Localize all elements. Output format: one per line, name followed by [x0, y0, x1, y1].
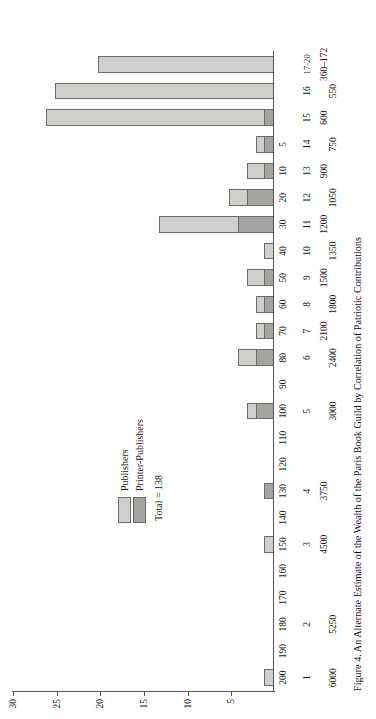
bar-group [55, 83, 273, 100]
livres-tick-label: 190 [278, 644, 288, 658]
capitation-class-label: 6 [302, 355, 312, 360]
bar-segment-printer-publishers [256, 349, 273, 366]
patriotic-contribution-label: 4500 [319, 535, 329, 554]
bar-group [264, 483, 273, 500]
figure-stage: 51015202530 Number of Publishers and Pri… [0, 0, 376, 719]
capitation-class-label: 5 [302, 409, 312, 414]
livres-tick-label: 120 [278, 457, 288, 471]
bar-segment-publishers [247, 163, 264, 180]
bar-segment-publishers [46, 109, 264, 126]
bar-group [256, 323, 273, 340]
bar-segment-publishers [264, 669, 273, 686]
livres-tick-label: 90 [278, 380, 288, 390]
livres-tick-label: 100 [278, 404, 288, 418]
livres-tick-label: 40 [278, 246, 288, 256]
patriotic-contribution-label: 5250 [328, 615, 338, 634]
patriotic-contribution-label: 1050 [328, 188, 338, 207]
bar-segment-publishers [98, 56, 273, 73]
bar-group [264, 243, 273, 260]
bar-segment-publishers [256, 296, 265, 313]
patriotic-contribution-label: 3000 [328, 402, 338, 421]
livres-tick-label: 200 [278, 671, 288, 685]
livres-tick-label: 80 [278, 353, 288, 363]
patriotic-contribution-label: 3750 [319, 482, 329, 501]
capitation-class-label: 17-20 [302, 54, 312, 74]
value-axis-tick [100, 691, 101, 696]
bar-segment-printer-publishers [264, 323, 273, 340]
livres-tick-label: 5 [278, 142, 288, 147]
capitation-class-label: 2 [302, 622, 312, 627]
capitation-class-label: 7 [302, 329, 312, 334]
row-livres: 2001901801701601501401301201101009080706… [278, 51, 298, 691]
livres-tick-label: 180 [278, 617, 288, 631]
patriotic-contribution-label: 1200 [319, 215, 329, 234]
value-axis-tick-label: 5 [226, 699, 236, 704]
value-axis-tick-label: 10 [183, 699, 193, 709]
bar-group [256, 136, 273, 153]
patriotic-contribution-label: 900 [319, 164, 329, 178]
bar-segment-publishers [247, 269, 264, 286]
value-axis: 51015202530 [12, 691, 275, 719]
bar-segment-publishers [256, 136, 265, 153]
livres-tick-label: 20 [278, 193, 288, 203]
bar-group [256, 296, 273, 313]
category-axis-baseline [273, 51, 274, 691]
patriotic-contribution-label: 6000 [328, 668, 338, 687]
chart-legend: Publishers Printer-Publishers Total = 13… [118, 419, 164, 523]
value-axis-tick-label: 20 [95, 699, 105, 709]
livres-tick-label: 130 [278, 484, 288, 498]
bar-segment-printer-publishers [264, 483, 273, 500]
patriotic-contribution-label: 360–172 [319, 48, 329, 81]
patriotic-contribution-label: 1800 [328, 295, 338, 314]
legend-label-printer-publishers: Printer-Publishers [134, 419, 145, 491]
patriotic-contribution-label: 2100 [319, 322, 329, 341]
bar-segment-publishers [238, 349, 255, 366]
livres-tick-label: 170 [278, 591, 288, 605]
bar-segment-publishers [256, 323, 265, 340]
value-axis-tick-label: 25 [52, 699, 62, 709]
bar-segment-printer-publishers [264, 163, 273, 180]
legend-label-publishers: Publishers [119, 449, 130, 491]
legend-total: Total = 138 [153, 419, 164, 521]
bar-segment-printer-publishers [247, 189, 273, 206]
bar-segment-printer-publishers [238, 216, 273, 233]
patriotic-contribution-label: 2400 [328, 348, 338, 367]
livres-tick-label: 30 [278, 220, 288, 230]
bar-group [46, 109, 273, 126]
legend-entry-publishers: Publishers [118, 419, 131, 523]
legend-entry-printer-publishers: Printer-Publishers [133, 419, 146, 523]
bar-group [247, 403, 273, 420]
bar-segment-publishers [229, 189, 246, 206]
patriotic-contribution-label: 1500 [319, 268, 329, 287]
value-axis-tick [231, 691, 232, 696]
capitation-class-label: 3 [302, 542, 312, 547]
livres-tick-label: 110 [278, 431, 288, 445]
bar-segment-publishers [264, 536, 273, 553]
capitation-class-label: 16 [302, 86, 312, 96]
capitation-class-label: 8 [302, 302, 312, 307]
capitation-class-label: 10 [302, 246, 312, 256]
capitation-class-label: 13 [302, 166, 312, 176]
bar-group [247, 269, 273, 286]
capitation-class-label: 12 [302, 193, 312, 203]
livres-tick-label: 10 [278, 166, 288, 176]
bar-group [264, 669, 273, 686]
bar-segment-printer-publishers [264, 269, 273, 286]
bar-segment-publishers [159, 216, 238, 233]
bar-segment-publishers [55, 83, 273, 100]
legend-swatch-publishers-icon [118, 497, 131, 523]
capitation-class-label: 9 [302, 275, 312, 280]
livres-tick-label: 60 [278, 300, 288, 310]
capitation-class-label: 14 [302, 140, 312, 150]
patriotic-contribution-label: 600 [319, 111, 329, 125]
patriotic-contribution-label: 1350 [328, 242, 338, 261]
livres-tick-label: 70 [278, 326, 288, 336]
figure-4-chart: 51015202530 Number of Publishers and Pri… [0, 0, 376, 719]
livres-tick-label: 160 [278, 564, 288, 578]
bar-group [98, 56, 273, 73]
bar-group [229, 189, 273, 206]
legend-swatch-printer-publishers-icon [133, 497, 146, 523]
bar-group [159, 216, 273, 233]
plot-area [12, 51, 274, 691]
bar-segment-printer-publishers [264, 296, 273, 313]
